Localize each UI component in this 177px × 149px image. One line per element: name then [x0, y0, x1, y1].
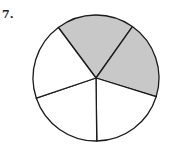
fraction-circle-diagram	[0, 0, 177, 149]
